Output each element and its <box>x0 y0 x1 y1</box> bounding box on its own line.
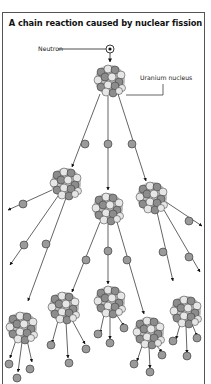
uranium-nucleus-icon <box>50 168 82 200</box>
uranium-nucleus-icon <box>48 292 80 324</box>
uranium-nucleus-icon <box>6 312 38 344</box>
uranium-nucleus-icon <box>170 296 202 328</box>
uranium-nucleus-icon <box>133 317 165 349</box>
chain-reaction-diagram <box>0 0 211 384</box>
uranium-nucleus-icon <box>94 286 126 318</box>
uranium-nucleus-icon <box>136 182 168 214</box>
neutron-icons <box>5 140 201 382</box>
uranium-nucleus-icon <box>94 65 126 97</box>
uranium-nucleus-icon <box>92 193 124 225</box>
